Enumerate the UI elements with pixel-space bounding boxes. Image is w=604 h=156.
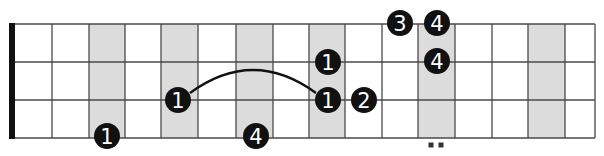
double-dot-fret-marker xyxy=(429,143,444,148)
finger-dot: 1 xyxy=(94,123,120,149)
shaded-fret-7 xyxy=(236,24,273,138)
finger-dot: 2 xyxy=(351,87,377,113)
finger-dot: 1 xyxy=(165,87,191,113)
shaded-fret-3 xyxy=(89,24,125,138)
finger-number: 2 xyxy=(357,89,370,113)
finger-number: 1 xyxy=(100,125,113,149)
finger-dot: 4 xyxy=(243,123,269,149)
finger-dot: 4 xyxy=(424,10,450,36)
finger-number: 4 xyxy=(249,125,262,149)
finger-number: 4 xyxy=(430,50,443,74)
finger-dot: 1 xyxy=(315,49,341,75)
finger-dot: 4 xyxy=(424,48,450,74)
fret-marker-dot xyxy=(439,143,444,148)
shaded-fret-12 xyxy=(418,24,455,138)
fret-marker-dot xyxy=(429,143,434,148)
finger-number: 4 xyxy=(430,12,443,36)
shaded-fret-9 xyxy=(309,24,345,138)
finger-dot: 3 xyxy=(387,10,413,36)
finger-number: 1 xyxy=(321,51,334,75)
shaded-fret-5 xyxy=(161,24,198,138)
finger-number: 1 xyxy=(321,89,334,113)
fretboard-diagram: 114112344 xyxy=(0,0,604,156)
finger-number: 1 xyxy=(171,89,184,113)
nut xyxy=(9,23,15,139)
shaded-fret-15 xyxy=(528,24,565,138)
finger-dot: 1 xyxy=(315,87,341,113)
finger-number: 3 xyxy=(393,12,406,36)
